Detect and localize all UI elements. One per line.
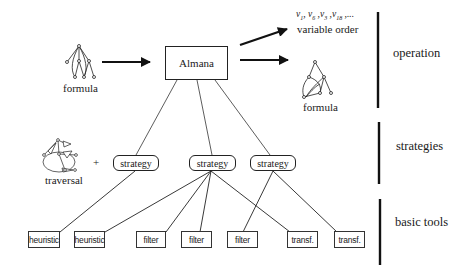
almana-label: Almana <box>179 57 214 69</box>
almana-box: Almana <box>165 46 228 80</box>
tool-filter-3: filter <box>227 231 258 248</box>
layer-label-operation: operation <box>393 47 440 60</box>
strategy-tool-links <box>60 171 337 232</box>
plus-sign: + <box>93 157 99 168</box>
tool-filter-1: filter <box>136 231 166 248</box>
strategy-node-1: strategy <box>113 155 159 171</box>
formula-tree-icon <box>66 45 96 79</box>
strategy-node-3: strategy <box>250 155 296 171</box>
output-formula-label: formula <box>303 102 338 113</box>
tool-transf-1: transf. <box>287 231 318 248</box>
strategy-node-2: strategy <box>189 155 236 171</box>
variable-sequence: v1, v6 ,v3 ,v18 ,... <box>296 10 354 21</box>
traversal-graph-icon <box>43 139 78 172</box>
input-formula-label: formula <box>63 83 98 94</box>
tool-heuristic-2: heuristic <box>74 231 105 248</box>
tool-filter-2: filter <box>181 231 212 248</box>
traversal-label: traversal <box>45 175 83 186</box>
layer-bars <box>378 12 380 265</box>
layer-label-basic-tools: basic tools <box>395 216 448 229</box>
formula-dag-icon <box>303 61 333 99</box>
almana-strategy-links <box>136 80 270 155</box>
layer-label-strategies: strategies <box>396 140 443 153</box>
tool-heuristic-1: heuristic <box>28 231 60 248</box>
output-arrow-variable-order <box>240 29 287 45</box>
tool-transf-2: transf. <box>334 231 365 248</box>
variable-order-label: variable order <box>297 24 358 35</box>
